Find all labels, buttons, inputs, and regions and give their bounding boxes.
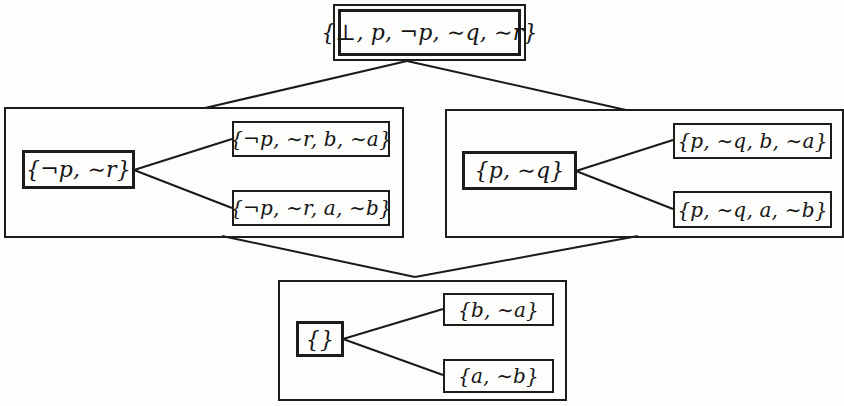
left-root-label: {¬p, ∼r} xyxy=(26,157,131,182)
edge-right-to-bottom xyxy=(415,236,638,277)
bottom-root-node: {} xyxy=(296,321,344,357)
edge-left-to-bottom xyxy=(222,236,415,277)
left-child-node-1: {¬p, ∼r, a, ∼b} xyxy=(232,190,390,226)
bottom-child-node-1: {a, ∼b} xyxy=(443,359,554,393)
edge-top-to-right xyxy=(407,61,626,110)
bottom-child-label-1: {a, ∼b} xyxy=(458,364,539,388)
bottom-root-label: {} xyxy=(306,327,334,352)
bottom-child-label-0: {b, ∼a} xyxy=(458,298,539,322)
top-node: {⊥, p, ¬p, ∼q, ∼r} xyxy=(338,9,521,56)
right-child-node-1: {p, ∼q, a, ∼b} xyxy=(673,191,832,228)
bottom-child-node-0: {b, ∼a} xyxy=(443,293,554,326)
left-root-node: {¬p, ∼r} xyxy=(22,150,135,189)
right-child-node-0: {p, ∼q, b, ∼a} xyxy=(673,123,832,159)
left-child-node-0: {¬p, ∼r, b, ∼a} xyxy=(232,121,390,157)
left-child-label-0: {¬p, ∼r, b, ∼a} xyxy=(230,127,392,151)
right-root-label: {p, ∼q} xyxy=(475,158,565,183)
right-child-label-1: {p, ∼q, a, ∼b} xyxy=(677,198,827,222)
top-node-label: {⊥, p, ¬p, ∼q, ∼r} xyxy=(321,20,537,45)
left-child-label-1: {¬p, ∼r, a, ∼b} xyxy=(230,196,392,220)
right-root-node: {p, ∼q} xyxy=(462,151,577,190)
edge-top-to-left xyxy=(205,61,407,108)
right-child-label-0: {p, ∼q, b, ∼a} xyxy=(677,129,827,153)
